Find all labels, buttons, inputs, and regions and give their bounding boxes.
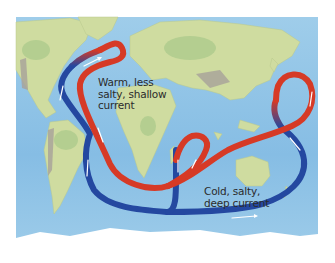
warm-label-line3: current — [98, 100, 166, 112]
world-map — [0, 0, 335, 263]
cold-label-line2: deep current — [204, 198, 269, 210]
cold-label-line1: Cold, salty, — [204, 186, 269, 198]
warm-current-label: Warm, less salty, shallow current — [98, 77, 166, 112]
cold-current-label: Cold, salty, deep current — [204, 186, 269, 209]
warm-label-line1: Warm, less — [98, 77, 166, 89]
